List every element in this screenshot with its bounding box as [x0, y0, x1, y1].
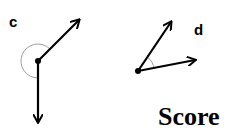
origin-point [35, 58, 41, 64]
panel-c: c [9, 13, 79, 122]
panel-c-label: c [9, 13, 17, 30]
panel-d-label: d [194, 21, 203, 38]
origin-point [135, 68, 141, 74]
vector-arrow-up-right [38, 20, 79, 61]
panel-d: d [135, 21, 203, 74]
vector-arrow-up [138, 22, 171, 71]
vector-arrow-right [138, 60, 195, 71]
score-title: Score [158, 104, 220, 130]
